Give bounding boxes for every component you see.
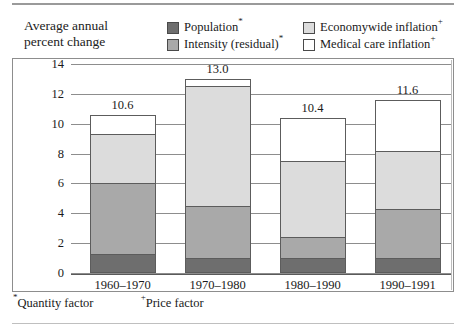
bar-segment-population bbox=[375, 258, 441, 273]
bar-segment-intensity bbox=[280, 237, 346, 258]
chart-plot-area: 0246810121410.61960–197013.01970–198010.… bbox=[71, 64, 451, 278]
bar-total-label-1990–1991: 11.6 bbox=[375, 83, 441, 98]
legend-swatch-population-icon bbox=[167, 22, 179, 34]
legend-label-medical: Medical care inflation+ bbox=[320, 37, 435, 52]
bar-1990–1991[interactable] bbox=[375, 100, 441, 273]
bar-segment-population bbox=[280, 258, 346, 273]
y-axis-tick-10: 10 bbox=[42, 118, 64, 130]
legend-column-right: Economywide inflation+ Medical care infl… bbox=[303, 19, 443, 53]
footnote-quantity: *Quantity factor bbox=[13, 296, 94, 311]
legend-label-intensity: Intensity (residual)* bbox=[184, 37, 283, 52]
top-divider bbox=[12, 3, 454, 5]
bar-1960–1970[interactable] bbox=[90, 115, 156, 273]
legend-item-medical: Medical care inflation+ bbox=[303, 36, 443, 53]
y-axis-tick-2: 2 bbox=[42, 237, 64, 249]
chart-plot-frame: 0246810121410.61960–197013.01970–198010.… bbox=[12, 58, 454, 292]
bar-segment-intensity bbox=[185, 206, 251, 258]
y-axis-tick-4: 4 bbox=[42, 207, 64, 219]
x-axis-label-1990–1991: 1990–1991 bbox=[366, 278, 450, 293]
legend-item-population: Population* bbox=[167, 19, 283, 36]
legend-label-economywide: Economywide inflation+ bbox=[320, 20, 443, 35]
footnote-price-marker: + bbox=[141, 292, 146, 302]
legend-marker-population: * bbox=[238, 16, 243, 26]
y-axis-tick-14: 14 bbox=[42, 58, 64, 70]
bar-segment-economywide bbox=[90, 134, 156, 183]
bar-segment-intensity bbox=[375, 209, 441, 258]
bar-segment-economywide bbox=[375, 151, 441, 209]
bar-segment-medical bbox=[90, 115, 156, 134]
legend-swatch-intensity-icon bbox=[167, 39, 179, 51]
bar-1970–1980[interactable] bbox=[185, 79, 251, 273]
bar-total-label-1960–1970: 10.6 bbox=[90, 98, 156, 113]
bar-segment-medical bbox=[375, 100, 441, 151]
bar-total-label-1970–1980: 13.0 bbox=[185, 62, 251, 77]
legend-column-left: Population* Intensity (residual)* bbox=[167, 19, 283, 53]
chart-header: Average annual percent change Population… bbox=[0, 18, 466, 58]
bar-segment-intensity bbox=[90, 183, 156, 253]
x-axis-label-1980–1990: 1980–1990 bbox=[271, 278, 355, 293]
legend-label-population: Population* bbox=[184, 20, 243, 35]
gridline-0 bbox=[71, 273, 451, 274]
bar-segment-economywide bbox=[185, 86, 251, 205]
chart-title: Average annual percent change bbox=[24, 18, 174, 50]
x-axis-label-1970–1980: 1970–1980 bbox=[176, 278, 260, 293]
bar-segment-economywide bbox=[280, 161, 346, 237]
bottom-divider bbox=[12, 323, 454, 324]
legend-marker-medical: + bbox=[430, 33, 435, 43]
bar-segment-medical bbox=[280, 118, 346, 161]
bar-segment-medical bbox=[185, 79, 251, 86]
footnote-price-label: Price factor bbox=[146, 296, 204, 311]
gridline-14 bbox=[71, 64, 451, 65]
chart-title-line2: percent change bbox=[24, 34, 174, 50]
bar-segment-population bbox=[185, 258, 251, 273]
bar-total-label-1980–1990: 10.4 bbox=[280, 101, 346, 116]
bar-1980–1990[interactable] bbox=[280, 118, 346, 273]
legend-swatch-economywide-icon bbox=[303, 22, 315, 34]
bar-segment-population bbox=[90, 254, 156, 273]
x-axis-label-1960–1970: 1960–1970 bbox=[81, 278, 165, 293]
legend-marker-intensity: * bbox=[279, 33, 284, 43]
legend-marker-economywide: + bbox=[438, 16, 443, 26]
chart-title-line1: Average annual bbox=[24, 18, 174, 34]
y-axis-tick-8: 8 bbox=[42, 148, 64, 160]
footnote-quantity-label: Quantity factor bbox=[18, 296, 94, 311]
y-axis-tick-12: 12 bbox=[42, 88, 64, 100]
footnote-quantity-marker: * bbox=[13, 292, 18, 302]
chart-footnotes: *Quantity factor +Price factor bbox=[13, 296, 453, 311]
y-axis-tick-6: 6 bbox=[42, 177, 64, 189]
frame-inner-rule bbox=[451, 60, 452, 290]
footnote-price: +Price factor bbox=[141, 296, 204, 311]
legend-item-economywide: Economywide inflation+ bbox=[303, 19, 443, 36]
legend-item-intensity: Intensity (residual)* bbox=[167, 36, 283, 53]
y-axis-tick-0: 0 bbox=[42, 267, 64, 279]
legend-swatch-medical-icon bbox=[303, 39, 315, 51]
